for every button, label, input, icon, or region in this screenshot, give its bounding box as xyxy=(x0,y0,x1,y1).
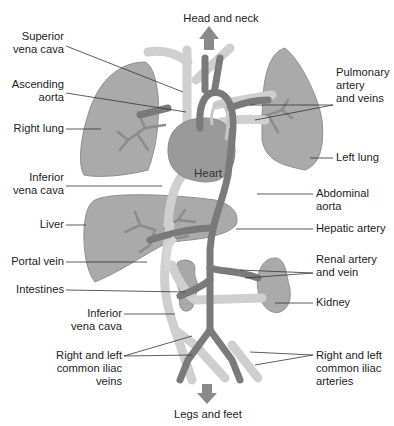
label-ascending-aorta: Ascendingaorta xyxy=(0,78,64,104)
right-lung xyxy=(81,62,159,176)
label-right-lung: Right lung xyxy=(0,122,64,135)
label-kidney: Kidney xyxy=(316,296,350,309)
label-common-iliac-veins: Right and leftcommon iliacveins xyxy=(30,349,122,388)
label-pulmonary-artery-veins: Pulmonaryarteryand veins xyxy=(336,66,389,105)
label-intestines: Intestines xyxy=(0,283,64,296)
label-head-and-neck: Head and neck xyxy=(176,12,266,25)
label-inferior-vena-cava-lower: Inferiorvena cava xyxy=(40,307,122,333)
arrow-down-icon xyxy=(197,384,217,404)
arrow-up-icon xyxy=(199,26,219,50)
label-common-iliac-arteries: Right and leftcommon iliacarteries xyxy=(316,349,382,388)
label-liver: Liver xyxy=(0,218,64,231)
label-heart: Heart xyxy=(180,167,236,180)
label-legs-and-feet: Legs and feet xyxy=(160,408,256,421)
label-abdominal-aorta: Abdominalaorta xyxy=(316,187,369,213)
kidney xyxy=(257,258,290,313)
label-inferior-vena-cava-upper: Inferiorvena cava xyxy=(0,171,64,197)
label-left-lung: Left lung xyxy=(336,151,379,164)
label-superior-vena-cava: Superiorvena cava xyxy=(0,30,64,56)
label-renal-artery-vein: Renal arteryand vein xyxy=(316,253,377,279)
label-hepatic-artery: Hepatic artery xyxy=(316,222,386,235)
label-portal-vein: Portal vein xyxy=(0,255,64,268)
